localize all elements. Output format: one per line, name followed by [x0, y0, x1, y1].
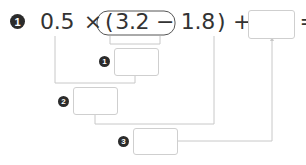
step-2-answer-box[interactable] [73, 87, 118, 115]
step-3-number: 3 [121, 137, 125, 146]
step-1-number: 1 [102, 57, 106, 66]
step-3-badge: 3 [118, 136, 129, 147]
step-2-number: 2 [61, 97, 65, 106]
equals-sign: = [300, 9, 306, 34]
inner-expression: 3.2 − 1.8 [115, 9, 215, 34]
times-operator: × [84, 9, 102, 34]
problem-number-badge: 1 [10, 14, 25, 29]
step-3-answer-box[interactable] [133, 128, 178, 155]
open-paren: ( [105, 9, 113, 34]
term-a: 0.5 [40, 9, 74, 34]
result-answer-box[interactable] [248, 10, 295, 39]
problem-number: 1 [14, 16, 20, 28]
close-paren: ) [217, 9, 225, 34]
step-2-badge: 2 [58, 96, 69, 107]
step-1-answer-box[interactable] [114, 48, 159, 76]
step-1-badge: 1 [99, 56, 110, 67]
